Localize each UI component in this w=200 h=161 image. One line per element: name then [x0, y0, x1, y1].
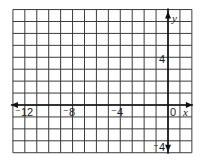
coordinate-plane — [0, 0, 200, 161]
y-axis-down-arrow-icon — [165, 145, 171, 152]
y-axis-up-arrow-icon — [165, 12, 171, 19]
x-tick-label-neg4: ⁻4 — [111, 107, 123, 118]
x-tick-label-neg8: ⁻8 — [63, 107, 75, 118]
y-tick-label-neg4: ⁻4 — [153, 142, 165, 153]
grid-lines — [13, 10, 192, 153]
x-tick-label-zero: 0 — [170, 107, 176, 118]
x-tick-label-neg12: ⁻12 — [15, 107, 33, 118]
y-axis-label: y — [172, 13, 177, 24]
y-tick-label-pos4: 4 — [159, 54, 165, 65]
x-axis-label: x — [183, 107, 188, 118]
